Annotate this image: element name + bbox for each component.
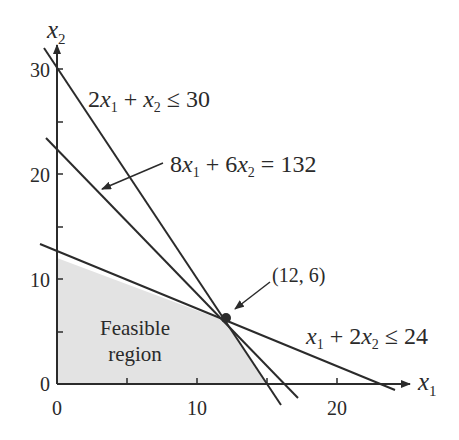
y-tick-label-10: 10 (30, 269, 50, 291)
x-tick-label-0: 0 (52, 397, 62, 419)
x-axis-label: x1 (417, 368, 437, 399)
constraint-label-c1: 2x1 + x2 ≤ 30 (88, 86, 210, 115)
optimum-pointer-arrow (235, 282, 270, 309)
x-tick-label-10: 10 (187, 397, 207, 419)
objective-label: 8x1 + 6x2 = 132 (170, 151, 316, 180)
y-tick-label-0: 0 (40, 373, 50, 395)
constraint-label-c2: x1 + 2x2 ≤ 24 (305, 323, 428, 352)
y-tick-label-30: 30 (30, 59, 50, 81)
y-tick-label-20: 20 (30, 164, 50, 186)
optimum-label: (12, 6) (272, 264, 325, 287)
x-tick-label-20: 20 (327, 397, 347, 419)
optimum-point (221, 313, 231, 323)
objective-pointer-arrow (102, 163, 163, 189)
feasible-region-label-line2: region (108, 342, 162, 366)
feasible-region-label-line1: Feasible (100, 316, 170, 340)
y-axis-label: x2 (46, 16, 66, 47)
lp-diagram: 0 10 20 0 10 20 30 x2 x1 2x1 + x2 ≤ 30 8… (0, 0, 459, 440)
